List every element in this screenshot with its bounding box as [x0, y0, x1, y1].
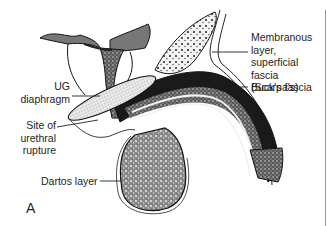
pubic-bone — [155, 12, 216, 74]
label-line: fascia — [251, 69, 312, 82]
label-line: urethral — [10, 132, 56, 145]
label-ug-diaphragm: UG diaphragm — [18, 80, 70, 105]
label-dartos-layer: Dartos layer — [41, 175, 98, 188]
panel-border — [325, 10, 326, 226]
label-line: layer, — [251, 44, 312, 57]
label-line: Membranous — [251, 31, 312, 44]
label-line: UG — [18, 80, 70, 93]
label-urethral-rupture: Site of urethral rupture — [10, 119, 56, 157]
label-bucks-fascia: Buck's fascia — [251, 81, 312, 94]
scrotum — [121, 128, 186, 211]
label-line: diaphragm — [18, 93, 70, 106]
label-line: superficial — [251, 56, 312, 69]
label-line: Site of — [10, 119, 56, 132]
anatomical-figure: Membranous layer, superficial fascia (Sc… — [0, 0, 335, 226]
panel-letter: A — [26, 200, 35, 216]
label-line: rupture — [10, 144, 56, 157]
